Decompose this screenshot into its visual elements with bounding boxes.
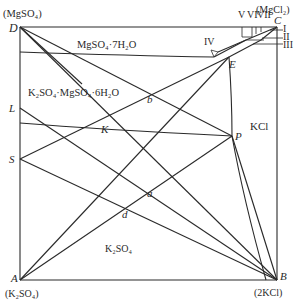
point-a-label: a xyxy=(147,187,153,199)
field-IV-label: IV xyxy=(204,36,215,47)
point-D-label: D xyxy=(8,21,18,35)
corner-D-compound: (MgSO₄) xyxy=(3,8,42,20)
corner-A-compound: (K₂SO₄) xyxy=(5,288,39,300)
region-epsomite-label: MgSO₄·7H₂O xyxy=(77,39,137,50)
point-d-label: d xyxy=(122,208,128,220)
field-V-label: V xyxy=(238,9,246,20)
point-K-label: K xyxy=(100,123,109,135)
point-L-label: L xyxy=(8,102,15,114)
point-P-label: P xyxy=(234,130,242,142)
point-b-label: b xyxy=(147,93,153,105)
field-VI-label: VI xyxy=(247,9,258,20)
corner-B-compound: (2KCl) xyxy=(254,287,282,299)
region-schoenite-label: K₂SO₄·MgSO₄·6H₂O xyxy=(28,87,119,98)
boundary-curves xyxy=(20,27,283,280)
point-S-label: S xyxy=(9,153,15,165)
tie-lines xyxy=(20,27,277,280)
point-B-label: B xyxy=(280,270,287,282)
point-C-label: C xyxy=(274,14,282,26)
region-kcl-label: KCl xyxy=(250,120,268,132)
region-k2so4-label: K₂SO₄ xyxy=(105,243,132,254)
point-E-label: E xyxy=(228,58,236,70)
point-A-label: A xyxy=(10,272,18,284)
field-III-label: III xyxy=(283,39,293,50)
field-VII-label: VII xyxy=(257,9,271,20)
phase-diagram: D (MgSO₄) C (MgCl₂) A (K₂SO₄) B (2KCl) L… xyxy=(0,0,304,301)
